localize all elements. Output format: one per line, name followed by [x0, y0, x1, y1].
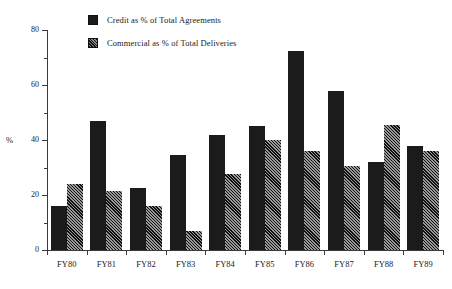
- x-axis-label-fy84: FY84: [205, 259, 245, 269]
- x-tick-FY86: [324, 250, 325, 255]
- y-tick-20: [42, 195, 47, 196]
- y-tick-40: [42, 140, 47, 141]
- x-axis-label-fy88: FY88: [364, 259, 404, 269]
- x-axis-label-fy82: FY82: [126, 259, 166, 269]
- bar-fy83-commercial: [186, 231, 202, 250]
- x-axis-label-fy85: FY85: [245, 259, 285, 269]
- bar-fy84-commercial: [225, 174, 241, 250]
- bar-fy89-commercial: [423, 151, 439, 250]
- x-axis-label-fy80: FY80: [47, 259, 87, 269]
- y-axis-line: [47, 30, 48, 251]
- bar-fy87-commercial: [344, 166, 360, 250]
- x-tick-FY85: [285, 250, 286, 255]
- legend-item-credit: Credit as % of Total Agreements: [88, 12, 237, 28]
- legend-label-credit: Credit as % of Total Agreements: [107, 15, 221, 25]
- y-tick-80: [42, 30, 47, 31]
- x-tick-FY84: [245, 250, 246, 255]
- bar-chart: Credit as % of Total Agreements Commerci…: [0, 0, 452, 289]
- bar-fy82-commercial: [146, 206, 162, 250]
- y-tick-label-0: 0: [23, 246, 39, 254]
- bar-fy81-commercial: [106, 191, 122, 250]
- plot-area: % 020406080 FY80FY81FY82FY83FY84FY85FY86…: [47, 30, 443, 250]
- x-axis-label-fy83: FY83: [166, 259, 206, 269]
- x-axis-label-fy87: FY87: [324, 259, 364, 269]
- y-tick-60: [42, 85, 47, 86]
- x-tick-origin: [47, 250, 48, 255]
- y-tick-label-80: 80: [23, 26, 39, 34]
- bar-fy88-credit: [368, 162, 384, 250]
- bar-fy89-credit: [407, 146, 423, 251]
- y-axis-title: %: [6, 136, 13, 145]
- y-tick-minor-70: [44, 58, 47, 59]
- bar-fy88-commercial: [384, 125, 400, 250]
- x-tick-FY88: [403, 250, 404, 255]
- legend-swatch-credit-icon: [88, 15, 98, 25]
- bar-fy80-credit: [51, 206, 67, 250]
- y-tick-minor-10: [44, 223, 47, 224]
- y-tick-label-40: 40: [23, 136, 39, 144]
- bar-fy86-credit: [288, 51, 304, 250]
- y-tick-label-20: 20: [23, 191, 39, 199]
- x-tick-FY80: [87, 250, 88, 255]
- x-tick-FY83: [205, 250, 206, 255]
- x-axis-label-fy89: FY89: [403, 259, 443, 269]
- bar-fy87-credit: [328, 91, 344, 251]
- bar-fy85-credit: [249, 126, 265, 250]
- x-tick-FY82: [166, 250, 167, 255]
- bar-fy85-commercial: [265, 140, 281, 250]
- x-tick-FY81: [126, 250, 127, 255]
- y-tick-label-60: 60: [23, 81, 39, 89]
- bar-fy81-credit: [90, 121, 106, 250]
- bar-fy82-credit: [130, 188, 146, 250]
- x-axis-label-fy86: FY86: [285, 259, 325, 269]
- bar-fy84-credit: [209, 135, 225, 251]
- y-tick-minor-50: [44, 113, 47, 114]
- x-tick-FY89: [443, 250, 444, 255]
- x-axis-label-fy81: FY81: [87, 259, 127, 269]
- y-tick-minor-30: [44, 168, 47, 169]
- x-tick-FY87: [364, 250, 365, 255]
- bar-fy83-credit: [170, 155, 186, 250]
- bar-fy80-commercial: [67, 184, 83, 250]
- bar-fy86-commercial: [304, 151, 320, 250]
